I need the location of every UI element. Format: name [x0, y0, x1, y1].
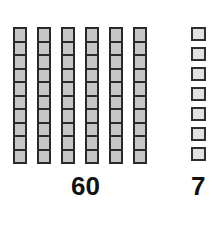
rod-cell: [39, 83, 49, 97]
rod-cell: [15, 137, 25, 151]
unit-cube: [191, 127, 206, 141]
ten-rod: [13, 27, 27, 164]
rod-cell: [135, 97, 145, 111]
rod-cell: [135, 29, 145, 43]
rod-cell: [15, 124, 25, 138]
rod-cell: [111, 124, 121, 138]
rod-cell: [111, 70, 121, 84]
rod-cell: [111, 97, 121, 111]
rod-cell: [111, 83, 121, 97]
rod-cell: [15, 43, 25, 57]
rod-cell: [63, 97, 73, 111]
ten-rod: [61, 27, 75, 164]
rod-cell: [87, 97, 97, 111]
rod-cell: [87, 124, 97, 138]
rod-cell: [63, 43, 73, 57]
tens-label: 60: [71, 172, 100, 200]
rod-cell: [15, 83, 25, 97]
rod-cell: [87, 70, 97, 84]
rod-cell: [39, 124, 49, 138]
rod-cell: [63, 110, 73, 124]
ones-label: 7: [191, 172, 205, 200]
ten-rod: [133, 27, 147, 164]
ten-rod: [37, 27, 51, 164]
rod-cell: [135, 83, 145, 97]
unit-cube: [191, 27, 206, 41]
rod-cell: [63, 137, 73, 151]
rod-cell: [135, 70, 145, 84]
rod-cell: [39, 97, 49, 111]
rod-cell: [63, 83, 73, 97]
rod-cell: [39, 151, 49, 163]
unit-cube: [191, 107, 206, 121]
unit-cube: [191, 47, 206, 61]
rod-cell: [87, 151, 97, 163]
rod-cell: [15, 70, 25, 84]
rod-cell: [135, 137, 145, 151]
rod-cell: [15, 29, 25, 43]
rod-cell: [63, 56, 73, 70]
ten-rod: [85, 27, 99, 164]
rod-cell: [135, 124, 145, 138]
rod-cell: [87, 110, 97, 124]
rod-cell: [15, 56, 25, 70]
rod-cell: [39, 137, 49, 151]
rod-cell: [15, 151, 25, 163]
rod-cell: [111, 43, 121, 57]
rod-cell: [87, 29, 97, 43]
rod-cell: [63, 29, 73, 43]
rod-cell: [39, 70, 49, 84]
rod-cell: [15, 110, 25, 124]
rod-cell: [63, 124, 73, 138]
rod-cell: [87, 43, 97, 57]
rod-cell: [39, 110, 49, 124]
ten-rod: [109, 27, 123, 164]
unit-cube: [191, 87, 206, 101]
rod-cell: [135, 151, 145, 163]
unit-cube: [191, 67, 206, 81]
rod-cell: [135, 43, 145, 57]
rod-cell: [87, 83, 97, 97]
rod-cell: [63, 70, 73, 84]
rod-cell: [111, 151, 121, 163]
rod-cell: [39, 29, 49, 43]
rod-cell: [87, 137, 97, 151]
rod-cell: [87, 56, 97, 70]
rod-cell: [111, 137, 121, 151]
rod-cell: [111, 56, 121, 70]
rod-cell: [111, 29, 121, 43]
rod-cell: [15, 97, 25, 111]
rod-cell: [135, 56, 145, 70]
rod-cell: [39, 43, 49, 57]
rod-cell: [135, 110, 145, 124]
rod-cell: [63, 151, 73, 163]
unit-cube: [191, 147, 206, 161]
rod-cell: [39, 56, 49, 70]
rod-cell: [111, 110, 121, 124]
